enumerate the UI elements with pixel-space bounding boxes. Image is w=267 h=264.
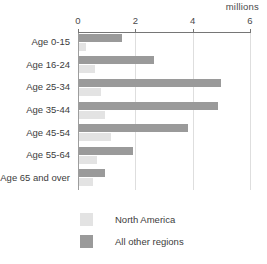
category-label: Age 45-54 xyxy=(26,127,70,138)
bar-all-other-regions xyxy=(79,169,105,177)
category-label: Age 0-15 xyxy=(31,36,70,47)
gridline xyxy=(193,33,194,190)
cropped-title-remnant xyxy=(34,0,154,2)
category-label: Age 55-64 xyxy=(26,149,70,160)
gridline xyxy=(250,33,251,190)
x-tick-label: 2 xyxy=(133,15,138,26)
category-label: Age 65 and over xyxy=(0,172,70,183)
bar-all-other-regions xyxy=(79,102,218,110)
x-tick-label: 4 xyxy=(190,15,195,26)
legend-item: North America xyxy=(80,208,184,230)
plot-area: 0246 xyxy=(78,32,250,190)
bar-north-america xyxy=(79,133,111,141)
category-label: Age 35-44 xyxy=(26,104,70,115)
bar-all-other-regions xyxy=(79,34,122,42)
bar-north-america xyxy=(79,156,97,164)
bar-all-other-regions xyxy=(79,56,154,64)
legend-item: All other regions xyxy=(80,230,184,252)
bar-north-america xyxy=(79,88,101,96)
bar-north-america xyxy=(79,111,105,119)
legend-swatch xyxy=(80,213,93,226)
bar-north-america xyxy=(79,65,95,73)
legend-label: All other regions xyxy=(115,236,184,247)
bar-all-other-regions xyxy=(79,147,133,155)
bar-north-america xyxy=(79,178,93,186)
bar-all-other-regions xyxy=(79,124,188,132)
x-tick-label: 6 xyxy=(247,15,252,26)
bar-north-america xyxy=(79,43,86,51)
category-label: Age 16-24 xyxy=(26,59,70,70)
bar-chart: millions Age 0-15Age 16-24Age 25-34Age 3… xyxy=(0,0,267,264)
axis-unit-label: millions xyxy=(226,1,259,12)
x-tick-label: 0 xyxy=(75,15,80,26)
legend-label: North America xyxy=(115,214,175,225)
category-label: Age 25-34 xyxy=(26,81,70,92)
bar-all-other-regions xyxy=(79,79,221,87)
x-tick-mark xyxy=(78,29,79,33)
category-axis-labels: Age 0-15Age 16-24Age 25-34Age 35-44Age 4… xyxy=(0,32,74,190)
chart-legend: North AmericaAll other regions xyxy=(80,208,184,252)
legend-swatch xyxy=(80,235,93,248)
